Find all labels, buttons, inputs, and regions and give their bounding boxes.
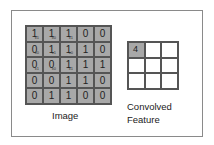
- image-cell: 1: [60, 73, 77, 89]
- cell-value: 0: [83, 90, 89, 101]
- convolved-label: Convolved: [127, 101, 172, 112]
- cell-value: 1: [66, 75, 72, 86]
- cell-value: 1: [100, 59, 106, 70]
- convolved-cell: [145, 73, 162, 89]
- image-cell: 1x1: [26, 26, 43, 42]
- cell-value: 1: [83, 59, 89, 70]
- convolved-cell: [145, 42, 162, 58]
- cell-value: 0: [100, 28, 106, 39]
- image-cell: 1x1: [60, 57, 77, 73]
- convolved-cell: [161, 58, 178, 74]
- image-cell: 0: [26, 88, 43, 104]
- convolved-cell: [145, 58, 162, 74]
- image-cell: 0: [43, 73, 60, 89]
- image-cell: 1x1: [60, 26, 77, 42]
- cell-value: 1: [83, 44, 89, 55]
- convolved-cell: [128, 58, 145, 74]
- kernel-weight: x1: [35, 66, 39, 71]
- feature-label: Feature: [127, 114, 160, 125]
- image-cell: 0: [77, 88, 94, 104]
- image-label: Image: [52, 110, 78, 121]
- cell-value: 1: [66, 90, 72, 101]
- convolved-cell: [161, 42, 178, 58]
- kernel-weight: x0: [69, 50, 73, 55]
- cell-value: 0: [32, 75, 38, 86]
- cell-value: 0: [83, 28, 89, 39]
- cell-value: 0: [100, 44, 106, 55]
- image-cell: 0: [94, 73, 111, 89]
- cell-value: 1: [49, 90, 55, 101]
- image-cell: 0: [77, 26, 94, 42]
- image-cell: 0x1: [26, 57, 43, 73]
- cell-value: 0: [100, 75, 106, 86]
- cell-value: 1: [83, 75, 89, 86]
- convolved-feature-matrix: 4: [127, 41, 179, 90]
- cell-value: 0: [100, 90, 106, 101]
- cell-value: 0: [49, 75, 55, 86]
- image-cell: 1: [43, 88, 60, 104]
- image-cell: 0x0: [26, 42, 43, 58]
- image-cell: 1x1: [43, 42, 60, 58]
- convolved-cell: [128, 73, 145, 89]
- cell-value: 0: [32, 90, 38, 101]
- image-cell: 1: [77, 42, 94, 58]
- image-cell: 1: [94, 57, 111, 73]
- kernel-weight: x1: [35, 35, 39, 40]
- image-cell: 0x0: [43, 57, 60, 73]
- kernel-weight: x0: [52, 66, 56, 71]
- image-cell: 1x0: [60, 42, 77, 58]
- kernel-weight: x0: [52, 35, 56, 40]
- image-cell: 0: [26, 73, 43, 89]
- kernel-weight: x1: [52, 50, 56, 55]
- image-matrix: 1x11x01x1000x01x11x0100x10x01x1110011001…: [25, 25, 112, 105]
- image-cell: 1: [77, 57, 94, 73]
- image-cell: 1: [60, 88, 77, 104]
- image-cell: 1: [77, 73, 94, 89]
- image-cell: 0: [94, 42, 111, 58]
- image-cell: 0: [94, 88, 111, 104]
- convolved-cell: 4: [128, 42, 145, 58]
- image-cell: 0: [94, 26, 111, 42]
- kernel-weight: x1: [69, 66, 73, 71]
- kernel-weight: x1: [69, 35, 73, 40]
- convolved-cell: [161, 73, 178, 89]
- kernel-weight: x0: [35, 50, 39, 55]
- image-cell: 1x0: [43, 26, 60, 42]
